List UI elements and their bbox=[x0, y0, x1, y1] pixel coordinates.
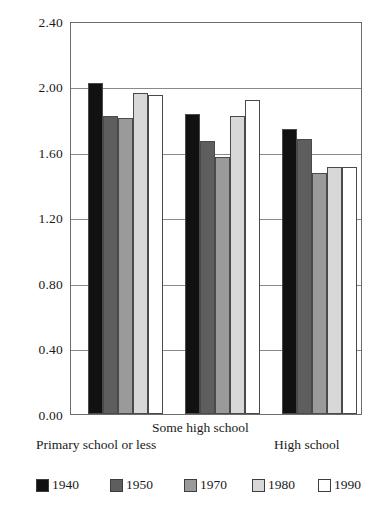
bar-1950-some-high-school bbox=[200, 141, 215, 414]
y-tick-label-2-00: 2.00 bbox=[3, 81, 63, 95]
y-tick-label-1-60: 1.60 bbox=[3, 147, 63, 161]
category-label-some-high-school: Some high school bbox=[152, 421, 249, 435]
bar-1990-high-school bbox=[342, 167, 357, 414]
y-tick-label-1-20: 1.20 bbox=[3, 212, 63, 226]
y-tick-label-2-40: 2.40 bbox=[3, 16, 63, 30]
legend-label-1970: 1970 bbox=[200, 478, 227, 492]
legend-item-1990: 1990 bbox=[318, 476, 361, 494]
legend-swatch-1950 bbox=[110, 479, 123, 492]
bar-1970-high-school bbox=[312, 173, 327, 414]
bar-1940-some-high-school bbox=[185, 114, 200, 414]
legend-item-1980: 1980 bbox=[252, 476, 295, 494]
plot-area bbox=[70, 22, 362, 415]
legend-swatch-1970 bbox=[184, 479, 197, 492]
bar-chart: 2.40 2.00 1.60 1.20 0.80 0.40 0.00 Prima… bbox=[0, 0, 374, 511]
legend-label-1980: 1980 bbox=[268, 478, 295, 492]
bar-1990-primary-school-or-less bbox=[148, 95, 163, 414]
legend-item-1970: 1970 bbox=[184, 476, 227, 494]
bar-group-primary-school-or-less bbox=[71, 23, 168, 414]
legend-item-1950: 1950 bbox=[110, 476, 153, 494]
bar-1980-some-high-school bbox=[230, 116, 245, 414]
bar-1970-some-high-school bbox=[215, 157, 230, 414]
bar-1980-primary-school-or-less bbox=[133, 93, 148, 414]
y-tick-label-0-40: 0.40 bbox=[3, 343, 63, 357]
bar-1940-primary-school-or-less bbox=[88, 83, 103, 414]
legend-label-1940: 1940 bbox=[52, 478, 79, 492]
bar-1950-primary-school-or-less bbox=[103, 116, 118, 414]
legend-swatch-1980 bbox=[252, 479, 265, 492]
bar-1940-high-school bbox=[282, 129, 297, 414]
legend-swatch-1940 bbox=[36, 479, 49, 492]
category-label-primary-school-or-less: Primary school or less bbox=[36, 438, 156, 452]
bar-1950-high-school bbox=[297, 139, 312, 414]
bar-group-some-high-school bbox=[168, 23, 265, 414]
legend-label-1990: 1990 bbox=[334, 478, 361, 492]
legend-item-1940: 1940 bbox=[36, 476, 79, 494]
bar-1980-high-school bbox=[327, 167, 342, 414]
legend-label-1950: 1950 bbox=[126, 478, 153, 492]
y-tick-label-0-80: 0.80 bbox=[3, 278, 63, 292]
bar-1990-some-high-school bbox=[245, 100, 260, 414]
bar-group-high-school bbox=[265, 23, 362, 414]
bar-1970-primary-school-or-less bbox=[118, 118, 133, 414]
legend: 1940 1950 1970 1980 1990 bbox=[0, 476, 374, 498]
category-label-high-school: High school bbox=[274, 438, 340, 452]
y-tick-label-0-00: 0.00 bbox=[3, 409, 63, 423]
legend-swatch-1990 bbox=[318, 479, 331, 492]
